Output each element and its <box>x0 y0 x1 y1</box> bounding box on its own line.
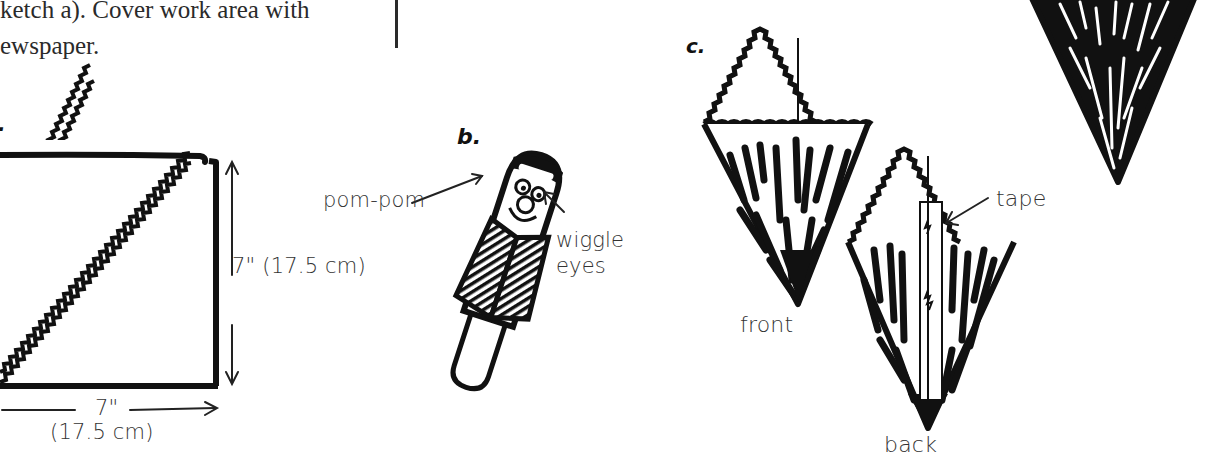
sketch-a-label: . <box>0 112 6 136</box>
sketch-a-dimension-arrows <box>0 140 260 390</box>
tape-label: tape <box>996 186 1046 211</box>
front-label: front <box>740 312 793 337</box>
back-label: back <box>884 432 937 456</box>
wiggle-eyes-callout-label-line-1: wiggle <box>556 228 624 252</box>
sketch-a-width-dimension-label: 7" <box>95 396 118 420</box>
wiggle-eyes-callout-label-line-2: eyes <box>556 254 606 278</box>
sketch-c-back-kite-illustration <box>844 150 1014 450</box>
sketch-finished-kite-partial-illustration <box>1020 0 1226 188</box>
instruction-text-line-2: ewspaper. <box>0 28 99 64</box>
instruction-text-line-1: ketch a). Cover work area with <box>0 0 310 28</box>
pom-pom-callout-label: pom-pom <box>323 188 425 212</box>
column-divider-rule <box>395 0 398 48</box>
sketch-a-width-metric-label: (17.5 cm) <box>50 420 154 444</box>
sketch-a-height-dimension-label: 7" (17.5 cm) <box>232 254 366 278</box>
